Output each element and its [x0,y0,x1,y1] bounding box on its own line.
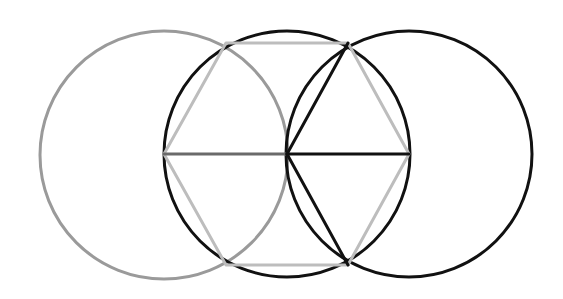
geometric-diagram [0,0,563,299]
